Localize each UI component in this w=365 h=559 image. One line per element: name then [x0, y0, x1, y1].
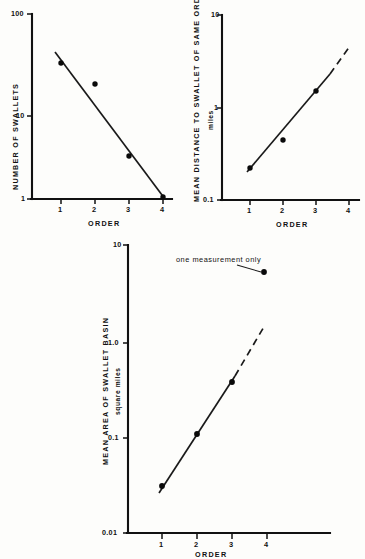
y-tick-label-0-01: 0.01 [102, 529, 117, 536]
x-tick-label-4: 4 [264, 541, 268, 548]
chart-number-of-swallets: 100 10 1 1 2 3 4 ORDER NUMBER OF SWALLET… [0, 0, 183, 240]
data-point-order-3 [313, 88, 318, 93]
y-tick-label-100: 100 [11, 10, 24, 17]
x-axis-title: ORDER [276, 221, 308, 228]
y-tick-label-1: 1 [214, 104, 218, 111]
regression-line-extrapolation [235, 325, 265, 376]
x-tick-label-2: 2 [280, 207, 284, 214]
y-tick-label-1: 1 [21, 195, 25, 202]
x-tick-label-3: 3 [229, 541, 233, 548]
y-axis-title: MEAN DISTANCE TO SWALLET OF SAME ORDER [193, 0, 200, 202]
x-tick-label-2: 2 [92, 206, 96, 213]
data-point-order-4 [160, 194, 165, 199]
x-tick-label-1: 1 [159, 541, 163, 548]
data-point-order-2 [92, 81, 97, 86]
data-point-order-3 [126, 153, 131, 158]
data-point-order-3 [229, 379, 235, 385]
y-tick-label-10: 10 [113, 241, 122, 248]
y-tick-label-10: 10 [211, 11, 220, 18]
mean-area-plot-area [80, 240, 365, 559]
y-axis-title: MEAN AREA OF SWALLET BASIN [102, 317, 109, 465]
y-axis-unit-label: miles [208, 110, 215, 130]
regression-line-extrapolation [330, 46, 350, 74]
data-point-order-2 [194, 431, 200, 437]
annotation-leader-line [237, 265, 261, 272]
x-axis-title: ORDER [195, 551, 227, 558]
data-point-order-4-outlier [261, 269, 267, 275]
annotation-one-measurement-only: one measurement only [176, 256, 261, 263]
chart-mean-distance-to-swallet: 10 1 0.1 1 2 3 4 ORDER MEAN DISTANCE TO … [183, 0, 365, 240]
y-axis-title: NUMBER OF SWALLETS [12, 83, 19, 190]
data-point-order-1 [58, 60, 63, 65]
figure-swallet-order-relationships: 100 10 1 1 2 3 4 ORDER NUMBER OF SWALLET… [0, 0, 365, 559]
number-of-swallets-plot-area [0, 0, 183, 240]
x-tick-label-2: 2 [194, 541, 198, 548]
x-tick-label-4: 4 [346, 207, 350, 214]
x-tick-label-3: 3 [126, 206, 130, 213]
y-axis-unit-label: square miles [115, 367, 122, 415]
y-tick-label-0-1: 0.1 [203, 196, 214, 203]
regression-line [247, 74, 330, 172]
data-point-order-1 [247, 165, 252, 170]
chart-mean-area-of-swallet-basin: 10 1.0 0.1 0.01 1 2 3 4 ORDER MEAN AREA … [80, 240, 365, 559]
regression-line [55, 52, 165, 199]
x-axis-title: ORDER [88, 220, 120, 227]
x-tick-label-4: 4 [160, 206, 164, 213]
data-point-order-2 [280, 137, 285, 142]
data-point-order-1 [159, 483, 165, 489]
x-tick-label-3: 3 [313, 207, 317, 214]
x-tick-label-1: 1 [58, 206, 62, 213]
x-tick-label-1: 1 [247, 207, 251, 214]
